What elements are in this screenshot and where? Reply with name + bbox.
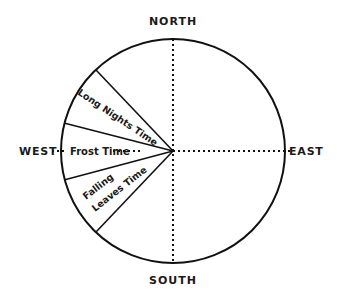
east-label: EAST xyxy=(289,145,324,158)
west-label: WEST xyxy=(19,145,57,158)
south-label: SOUTH xyxy=(149,274,197,287)
compass-diagram: NORTH SOUTH EAST WEST Long Nights Time F… xyxy=(0,0,337,296)
north-label: NORTH xyxy=(149,15,197,28)
segment-label-long-nights: Long Nights Time xyxy=(76,87,160,149)
segment-label-frost: Frost Time xyxy=(70,146,130,157)
